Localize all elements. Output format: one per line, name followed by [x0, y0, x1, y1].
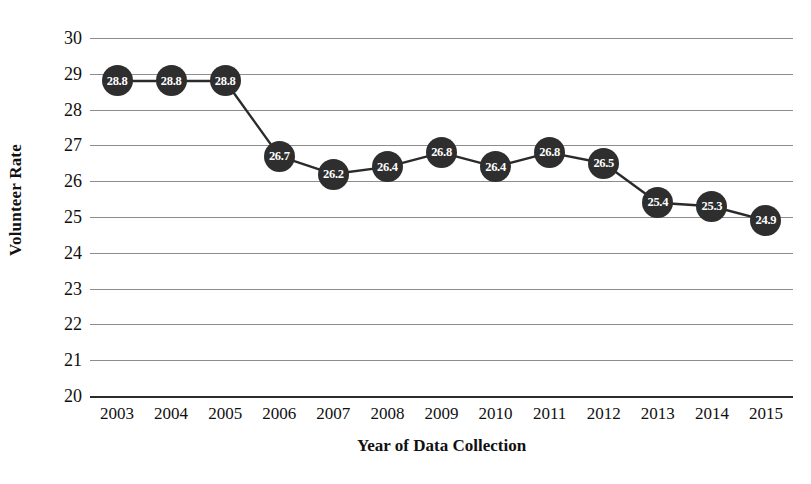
y-tick-label: 27	[42, 136, 82, 154]
data-point-marker: 25.3	[696, 191, 727, 222]
x-tick-label: 2006	[252, 404, 306, 424]
data-point-marker: 28.8	[102, 65, 133, 96]
x-tick-label: 2005	[198, 404, 252, 424]
data-point-label: 26.7	[269, 150, 290, 163]
data-point-label: 26.8	[431, 146, 452, 159]
y-axis-title: Volunteer Rate	[0, 0, 32, 400]
data-point-marker: 26.8	[534, 137, 565, 168]
data-point-marker: 28.8	[156, 65, 187, 96]
data-point-label: 25.3	[702, 200, 723, 213]
y-tick-label: 28	[42, 101, 82, 119]
plot-area: 28.828.828.826.726.226.426.826.426.826.5…	[90, 38, 793, 396]
data-point-marker: 26.8	[426, 137, 457, 168]
data-point-marker: 26.2	[318, 159, 349, 190]
data-point-marker: 28.8	[210, 65, 241, 96]
data-point-label: 24.9	[756, 214, 777, 227]
y-tick-label: 26	[42, 172, 82, 190]
x-tick-label: 2015	[739, 404, 793, 424]
y-tick-label: 21	[42, 351, 82, 369]
data-point-label: 26.4	[485, 161, 506, 174]
x-tick-label: 2004	[144, 404, 198, 424]
x-tick-label: 2011	[523, 404, 577, 424]
x-tick-label: 2007	[306, 404, 360, 424]
data-point-label: 28.8	[215, 75, 236, 88]
data-point-marker: 26.7	[264, 141, 295, 172]
x-tick-label: 2009	[415, 404, 469, 424]
data-point-marker: 26.5	[588, 148, 619, 179]
x-tick-label: 2013	[631, 404, 685, 424]
y-axis-title-text: Volunteer Rate	[6, 144, 26, 256]
data-point-label: 25.4	[647, 196, 668, 209]
data-point-label: 26.4	[377, 161, 398, 174]
x-tick-label: 2010	[469, 404, 523, 424]
y-tick-label: 23	[42, 280, 82, 298]
x-axis-tick-labels: 2003200420052006200720082009201020112012…	[90, 404, 793, 430]
volunteer-rate-line-chart: Volunteer Rate 3029282726252423222120 28…	[0, 0, 811, 484]
y-tick-label: 20	[42, 387, 82, 405]
y-tick-label: 29	[42, 65, 82, 83]
x-tick-label: 2003	[90, 404, 144, 424]
y-tick-label: 24	[42, 244, 82, 262]
x-axis-line	[90, 396, 793, 398]
data-point-label: 26.8	[539, 146, 560, 159]
data-point-label: 26.2	[323, 168, 344, 181]
x-axis-title: Year of Data Collection	[90, 436, 793, 456]
series-line	[90, 38, 793, 396]
data-point-label: 28.8	[107, 75, 128, 88]
x-tick-label: 2008	[360, 404, 414, 424]
y-tick-label: 30	[42, 29, 82, 47]
y-tick-label: 22	[42, 315, 82, 333]
x-tick-label: 2012	[577, 404, 631, 424]
data-point-label: 28.8	[161, 75, 182, 88]
y-tick-label: 25	[42, 208, 82, 226]
y-axis-tick-labels: 3029282726252423222120	[36, 38, 82, 396]
x-tick-label: 2014	[685, 404, 739, 424]
data-point-label: 26.5	[593, 157, 614, 170]
